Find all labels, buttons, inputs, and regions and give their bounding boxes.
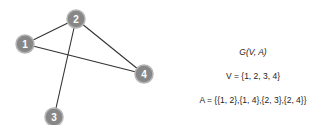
graph-edges	[25, 19, 144, 117]
node-label: 2	[73, 14, 79, 25]
graph-definition: G(V, A)	[183, 47, 323, 57]
arc-set: A = {{1, 2},{1, 4},{2, 3},{2, 4}}	[183, 95, 323, 105]
edge-2-3	[54, 19, 76, 117]
vertex-set: V = {1, 2, 3, 4}	[183, 71, 323, 81]
node-label: 3	[51, 112, 57, 123]
node-4: 4	[135, 65, 153, 83]
node-label: 4	[141, 69, 147, 80]
node-2: 2	[67, 10, 85, 28]
graph-nodes: 1234	[16, 10, 153, 125]
graph-diagram: 1234	[0, 0, 323, 125]
node-label: 1	[22, 39, 28, 50]
node-3: 3	[45, 108, 63, 125]
node-1: 1	[16, 35, 34, 53]
